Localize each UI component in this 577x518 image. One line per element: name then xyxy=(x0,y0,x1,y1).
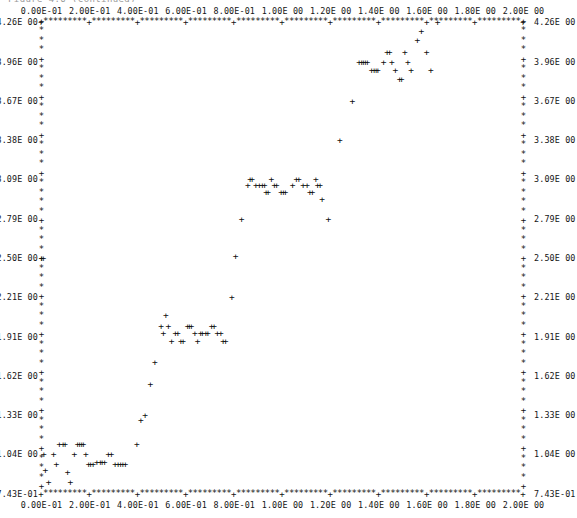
data-point: + xyxy=(71,449,77,459)
data-point: + xyxy=(152,358,158,368)
data-point: + xyxy=(408,65,414,75)
data-point: + xyxy=(62,439,68,449)
data-point: + xyxy=(134,439,140,449)
data-point: + xyxy=(41,449,47,459)
data-point: + xyxy=(239,214,245,224)
data-point: + xyxy=(223,336,229,346)
data-point: + xyxy=(102,458,108,468)
data-point-layer: ++++++++++++++++++++++++++++++++++++++++… xyxy=(0,0,577,518)
data-point: + xyxy=(424,48,430,58)
data-point: + xyxy=(42,465,48,475)
data-point: + xyxy=(317,180,323,190)
data-point: + xyxy=(381,57,387,67)
data-point: + xyxy=(51,449,57,459)
data-point: + xyxy=(337,135,343,145)
data-point: + xyxy=(41,253,47,263)
data-point: + xyxy=(265,187,271,197)
ascii-scatter-plot: Figure 4.6 (continued) 0.00E-012.00E-014… xyxy=(0,0,577,518)
data-point: + xyxy=(142,410,148,420)
data-point: + xyxy=(435,17,441,27)
data-point: + xyxy=(46,477,52,487)
data-point: + xyxy=(122,460,128,470)
data-point: + xyxy=(325,214,331,224)
data-point: + xyxy=(319,194,325,204)
data-point: + xyxy=(399,74,405,84)
data-point: + xyxy=(148,379,154,389)
data-point: + xyxy=(54,460,60,470)
data-point: + xyxy=(163,311,169,321)
data-point: + xyxy=(109,449,115,459)
data-point: + xyxy=(165,321,171,331)
data-point: + xyxy=(418,26,424,36)
data-point: + xyxy=(229,292,235,302)
data-point: + xyxy=(415,36,421,46)
data-point: + xyxy=(68,477,74,487)
data-point: + xyxy=(83,449,89,459)
data-point: + xyxy=(283,187,289,197)
data-point: + xyxy=(233,252,239,262)
data-point: + xyxy=(350,96,356,106)
data-point: + xyxy=(428,65,434,75)
data-point: + xyxy=(180,336,186,346)
